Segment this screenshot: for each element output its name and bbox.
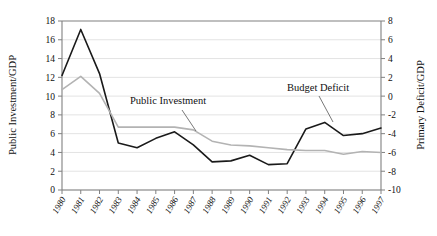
y-tick-label: 6	[50, 129, 55, 139]
y2-tick-label: 0	[388, 92, 393, 102]
y2-tick-label: -2	[388, 110, 396, 120]
y2-tick-label: 4	[388, 54, 393, 64]
y-tick-label: 18	[46, 16, 56, 26]
y-tick-label: 4	[50, 148, 55, 158]
y-tick-label: 2	[50, 167, 55, 177]
y2-tick-label: -8	[388, 167, 396, 177]
y-tick-label: 10	[46, 92, 56, 102]
y2-tick-label: -10	[388, 185, 401, 195]
y-tick-label: 0	[50, 185, 55, 195]
y2-tick-label: 8	[388, 16, 393, 26]
y2-tick-label: 2	[388, 73, 393, 83]
chart-canvas: 024681012141618 -10-8-6-4-202468 1980198…	[0, 0, 437, 236]
y2-tick-label: -6	[388, 148, 396, 158]
y2-tick-label: -4	[388, 129, 396, 139]
y-tick-label: 16	[46, 35, 56, 45]
chart-figure: 024681012141618 -10-8-6-4-202468 1980198…	[0, 0, 437, 236]
y2-tick-label: 6	[388, 35, 393, 45]
y-tick-label: 8	[50, 110, 55, 120]
annotation-label: Public Investment	[130, 95, 206, 106]
y2-axis-title: Primary Deficit/GDP	[415, 60, 426, 150]
y-tick-label: 14	[46, 54, 56, 64]
annotation-label: Budget Deficit	[287, 82, 349, 93]
y-tick-label: 12	[46, 73, 56, 83]
y-axis-title: Public Investment/GDP	[7, 55, 18, 155]
